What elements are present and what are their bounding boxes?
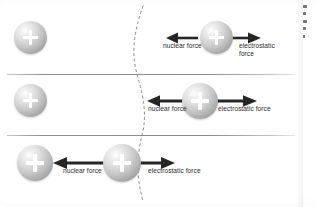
nuclear-force-label-panel-3: nuclear force [63, 167, 102, 175]
physics-force-diagram: nuclear force electrostaticforce [0, 0, 317, 207]
nucleus-proton-panel-1 [14, 21, 47, 54]
panel-divider-2 [7, 135, 295, 136]
electrostatic-force-label-panel-2: electrostatic force [218, 105, 271, 113]
free-proton-panel-3 [103, 144, 141, 182]
cutoff-text-line [303, 20, 307, 23]
free-proton-panel-2 [182, 83, 218, 119]
nuclear-force-label-panel-2: nuclear force [148, 105, 187, 113]
figure-frame: nuclear force electrostaticforce [3, 4, 295, 203]
page-edge-shadow [296, 0, 303, 207]
cutoff-text-line [303, 35, 305, 38]
nucleus-proton-panel-3 [17, 145, 53, 181]
free-proton-panel-1 [200, 21, 233, 54]
electrostatic-force-label-line1: electrostatic [239, 42, 275, 49]
panel-divider-1 [7, 74, 295, 75]
nucleus-proton-panel-2 [14, 84, 47, 117]
electrostatic-force-label-panel-1: electrostaticforce [239, 42, 281, 59]
cutoff-text-line [303, 12, 306, 15]
nuclear-force-label-panel-1: nuclear force [163, 42, 202, 50]
cutoff-text-line [303, 27, 306, 30]
electrostatic-force-label-line2: force [239, 50, 254, 57]
electrostatic-force-label-panel-3: electrostatic force [148, 167, 201, 175]
cutoff-text-line [303, 5, 307, 8]
cutoff-margin-text [303, 5, 317, 41]
